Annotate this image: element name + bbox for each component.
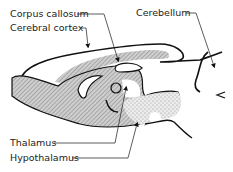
brain-section-svg: Corpus callosum Cerebral cortex Cerebell… bbox=[0, 0, 233, 172]
brain-diagram: Corpus callosum Cerebral cortex Cerebell… bbox=[0, 0, 233, 172]
cerebellum-mark bbox=[217, 92, 225, 98]
label-cerebral-cortex: Cerebral cortex bbox=[10, 22, 84, 33]
label-cerebellum: Cerebellum bbox=[136, 7, 190, 18]
leader-cerebellum bbox=[186, 13, 214, 66]
label-corpus-callosum: Corpus callosum bbox=[10, 8, 89, 19]
leader-hypothalamus bbox=[72, 124, 137, 158]
thalamus-nucleus bbox=[111, 83, 121, 93]
lower-outline bbox=[145, 120, 192, 138]
label-thalamus: Thalamus bbox=[9, 137, 56, 148]
label-hypothalamus: Hypothalamus bbox=[10, 152, 79, 163]
fornix bbox=[115, 63, 142, 72]
